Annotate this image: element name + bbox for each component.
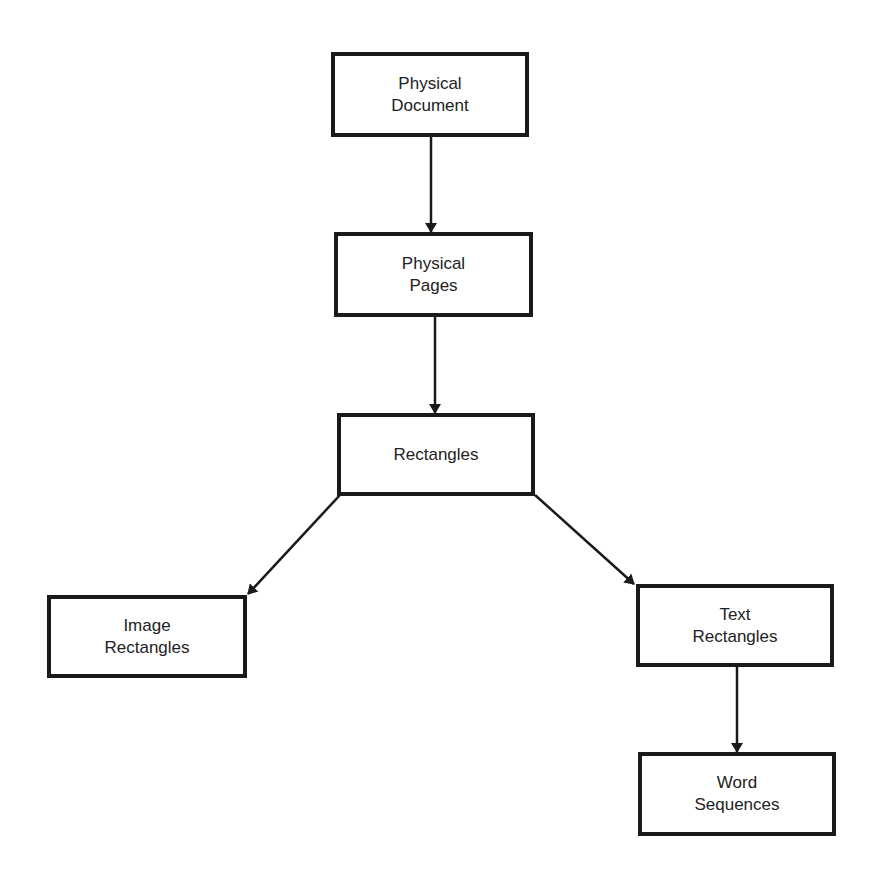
node-physical-pages: PhysicalPages (334, 232, 533, 317)
node-label-line: Rectangles (393, 444, 478, 466)
node-word-sequences: WordSequences (638, 752, 836, 836)
arrow-rectangles-to-text-rectangles (535, 495, 634, 584)
node-label-line: Pages (409, 275, 457, 297)
node-label-line: Rectangles (692, 626, 777, 648)
node-rectangles: Rectangles (337, 413, 535, 496)
node-label-line: Sequences (694, 794, 779, 816)
node-label-line: Document (391, 95, 468, 117)
node-image-rectangles: ImageRectangles (47, 595, 247, 678)
node-physical-document: PhysicalDocument (331, 52, 529, 137)
node-label-line: Physical (402, 253, 465, 275)
node-label-line: Rectangles (104, 637, 189, 659)
arrow-rectangles-to-image-rectangles (248, 495, 340, 594)
node-text-rectangles: TextRectangles (636, 584, 834, 667)
node-label-line: Physical (398, 73, 461, 95)
node-label-line: Word (717, 772, 757, 794)
node-label-line: Text (719, 604, 750, 626)
node-label-line: Image (123, 615, 170, 637)
